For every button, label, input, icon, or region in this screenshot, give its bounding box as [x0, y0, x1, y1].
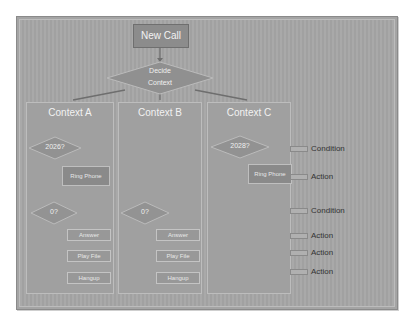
legend-label: Condition: [311, 144, 345, 153]
arrow-left-icon: [290, 269, 308, 275]
context-a-action-play-file[interactable]: Play File: [67, 250, 111, 262]
action-label: Hangup: [78, 275, 99, 281]
arrow-left-icon: [290, 146, 308, 152]
action-label: Play File: [166, 253, 189, 259]
context-b-title: Context B: [119, 107, 201, 118]
legend-action-1: Action: [290, 172, 333, 181]
context-c-title: Context C: [208, 107, 290, 118]
ring-phone-label: Ring Phone: [254, 171, 285, 177]
context-a-condition-1-label: 2026?: [28, 143, 82, 150]
context-a-action-answer[interactable]: Answer: [67, 229, 111, 241]
action-label: Answer: [168, 232, 188, 238]
ring-phone-label: Ring Phone: [70, 173, 101, 179]
legend-condition-1: Condition: [290, 144, 345, 153]
context-a-condition-2[interactable]: 0?: [30, 201, 78, 225]
decide-line-2: Context: [106, 79, 214, 86]
legend-action-2: Action: [290, 231, 333, 240]
context-b-action-answer[interactable]: Answer: [156, 229, 200, 241]
legend-condition-2: Condition: [290, 206, 345, 215]
context-b-panel: Context B: [118, 102, 202, 294]
context-b-condition-label: 0?: [120, 208, 170, 215]
legend-action-4: Action: [290, 267, 333, 276]
context-a-condition-2-label: 0?: [30, 208, 78, 215]
legend-action-3: Action: [290, 248, 333, 257]
context-a-action-ring-phone[interactable]: Ring Phone: [62, 166, 110, 186]
context-c-action-ring-phone[interactable]: Ring Phone: [248, 164, 292, 184]
action-label: Play File: [77, 253, 100, 259]
legend-label: Action: [311, 248, 333, 257]
arrow-left-icon: [290, 233, 308, 239]
legend-label: Condition: [311, 206, 345, 215]
arrow-left-icon: [290, 250, 308, 256]
action-label: Hangup: [167, 275, 188, 281]
node-new-call-label: New Call: [141, 30, 181, 41]
context-a-panel: Context A: [26, 102, 114, 294]
context-a-condition-1[interactable]: 2026?: [28, 136, 82, 160]
context-b-action-hangup[interactable]: Hangup: [156, 272, 200, 284]
context-c-panel: Context C: [207, 102, 291, 294]
decision-decide-context[interactable]: Decide Context: [106, 61, 214, 95]
decide-line-1: Decide: [106, 67, 214, 74]
context-b-condition[interactable]: 0?: [120, 201, 170, 225]
node-new-call[interactable]: New Call: [133, 24, 189, 48]
context-c-condition-label: 2028?: [210, 142, 270, 149]
action-label: Answer: [79, 232, 99, 238]
arrow-left-icon: [290, 174, 308, 180]
arrow-left-icon: [290, 208, 308, 214]
context-c-condition[interactable]: 2028?: [210, 135, 270, 159]
legend-label: Action: [311, 172, 333, 181]
context-b-action-play-file[interactable]: Play File: [156, 250, 200, 262]
context-a-action-hangup[interactable]: Hangup: [67, 272, 111, 284]
legend-label: Action: [311, 267, 333, 276]
legend-label: Action: [311, 231, 333, 240]
context-a-title: Context A: [27, 107, 113, 118]
